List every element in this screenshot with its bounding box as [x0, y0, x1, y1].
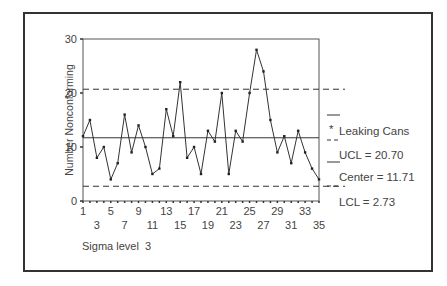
y-tick-label: 0 [71, 195, 77, 207]
data-point [221, 92, 223, 94]
x-axis-ticks: 1591317212529333711151923273135 [80, 201, 325, 231]
data-point [228, 173, 230, 175]
control-limits [83, 89, 345, 186]
data-point [207, 130, 209, 132]
x-tick-label: 7 [122, 219, 128, 231]
data-point [110, 178, 112, 180]
x-tick-label: 15 [174, 219, 186, 231]
y-axis-title: Number Nonconforming [63, 64, 75, 176]
data-point [262, 70, 264, 72]
data-series-line [83, 50, 319, 180]
data-point [144, 146, 146, 148]
data-point [241, 140, 243, 142]
legend-ucl-label: UCL = 20.70 [339, 149, 403, 161]
data-point [103, 146, 105, 148]
data-point [165, 108, 167, 110]
x-tick-label: 3 [94, 219, 100, 231]
data-point [283, 135, 285, 137]
sigma-level-label: Sigma level 3 [82, 240, 151, 252]
data-point [248, 92, 250, 94]
legend-lcl-label: LCL = 2.73 [339, 196, 395, 208]
x-tick-label: 5 [108, 205, 114, 217]
x-tick-label: 17 [188, 205, 200, 217]
data-point [255, 49, 257, 51]
data-point [172, 135, 174, 137]
legend-center-label: Center = 11.71 [339, 171, 415, 183]
plot-area [83, 39, 319, 201]
x-tick-label: 19 [202, 219, 214, 231]
x-tick-label: 27 [257, 219, 269, 231]
x-tick-label: 31 [285, 219, 297, 231]
x-tick-label: 9 [135, 205, 141, 217]
data-point [89, 119, 91, 121]
data-point [186, 157, 188, 159]
data-point [179, 81, 181, 83]
data-point [123, 113, 125, 115]
data-point [117, 162, 119, 164]
x-tick-label: 13 [160, 205, 172, 217]
x-tick-label: 25 [243, 205, 255, 217]
data-point [158, 167, 160, 169]
x-tick-label: 1 [80, 205, 86, 217]
data-point [214, 140, 216, 142]
x-tick-label: 11 [147, 219, 158, 231]
x-tick-label: 29 [271, 205, 283, 217]
x-tick-label: 21 [216, 205, 228, 217]
x-tick-label: 33 [299, 205, 311, 217]
data-point [82, 135, 84, 137]
x-tick-label: 35 [313, 219, 325, 231]
legend-series-marker-icon: * [329, 123, 334, 135]
data-point [311, 167, 313, 169]
x-tick-label: 23 [230, 219, 242, 231]
data-point [276, 151, 278, 153]
data-point [200, 173, 202, 175]
data-point [137, 124, 139, 126]
control-chart: 0102030 1591317212529333711151923273135 … [0, 0, 447, 286]
data-point [235, 130, 237, 132]
data-point [130, 151, 132, 153]
data-point [269, 119, 271, 121]
data-point [297, 130, 299, 132]
data-point [318, 178, 320, 180]
data-point [304, 151, 306, 153]
data-point [96, 157, 98, 159]
y-tick-label: 30 [65, 33, 77, 45]
legend-series-label: Leaking Cans [339, 125, 410, 137]
legend: * Leaking Cans UCL = 20.70 Center = 11.7… [327, 115, 415, 208]
data-point [151, 173, 153, 175]
data-point [193, 146, 195, 148]
data-point [290, 162, 292, 164]
